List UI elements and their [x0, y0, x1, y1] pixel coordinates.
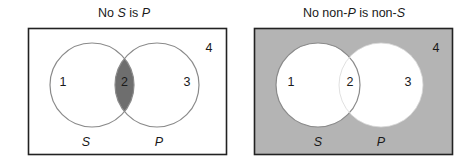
diagram-title-left: No S is P — [98, 6, 150, 20]
region-label-4: 4 — [433, 41, 440, 55]
diagram-title-right: No non-P is non-S — [303, 6, 405, 20]
title-part: is non- — [356, 6, 397, 20]
region-label-3: 3 — [405, 75, 412, 89]
title-part: No — [98, 6, 117, 20]
title-part-italic: S — [117, 6, 125, 20]
set-label-p: P — [155, 135, 164, 149]
title-part: is — [126, 6, 142, 20]
region-label-4: 4 — [206, 41, 213, 55]
region-label-3: 3 — [184, 75, 191, 89]
region-label-2: 2 — [121, 75, 128, 89]
region-label-1: 1 — [60, 75, 67, 89]
set-label-s: S — [314, 135, 323, 149]
title-part-italic: P — [347, 6, 355, 20]
region-label-2: 2 — [347, 75, 354, 89]
title-part-italic: S — [397, 6, 405, 20]
venn-diagrams-canvas: 1 2 3 4 S P 1 2 3 4 S P — [0, 0, 476, 166]
set-label-p: P — [377, 135, 386, 149]
set-label-s: S — [82, 135, 91, 149]
title-part: No non- — [303, 6, 347, 20]
title-part-italic: P — [142, 6, 150, 20]
region-label-1: 1 — [288, 75, 295, 89]
venn-diagram-no-non-p-is-non-s: 1 2 3 4 S P — [255, 29, 453, 155]
venn-diagram-no-s-is-p: 1 2 3 4 S P — [29, 29, 227, 155]
